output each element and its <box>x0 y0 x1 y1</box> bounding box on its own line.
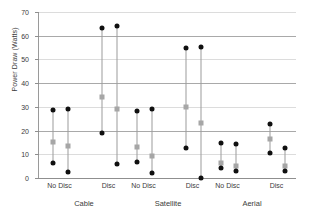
y-tick-label: 0 <box>25 175 29 182</box>
mean-point <box>115 107 120 112</box>
min-point <box>268 150 273 155</box>
gridline-40 <box>39 83 296 84</box>
gridline-10 <box>39 154 296 155</box>
min-point <box>199 175 204 180</box>
y-tick-70: 70 <box>35 12 39 13</box>
x-group-label-satellite: Satellite <box>155 199 182 208</box>
x-sub-label-disc: Disc <box>102 182 116 189</box>
mean-point <box>184 105 189 110</box>
max-point <box>199 45 204 50</box>
x-sub-label-disc: Disc <box>186 182 200 189</box>
y-tick-10: 10 <box>35 154 39 155</box>
max-point <box>219 141 224 146</box>
power-draw-chart: Power Draw (Watts) 010203040506070 No Di… <box>0 0 309 216</box>
x-group-label-cable: Cable <box>74 199 94 208</box>
min-point <box>100 131 105 136</box>
max-point <box>150 106 155 111</box>
mean-point <box>135 145 140 150</box>
max-point <box>135 108 140 113</box>
y-tick-50: 50 <box>35 59 39 60</box>
max-point <box>268 121 273 126</box>
x-sub-label-no-disc: No Disc <box>47 182 72 189</box>
y-tick-label: 50 <box>21 56 29 63</box>
mean-point <box>234 163 239 168</box>
y-tick-30: 30 <box>35 107 39 108</box>
max-point <box>234 142 239 147</box>
y-tick-20: 20 <box>35 131 39 132</box>
range-line <box>186 48 187 148</box>
mean-point <box>268 136 273 141</box>
gridline-60 <box>39 36 296 37</box>
max-point <box>115 24 120 29</box>
y-tick-label: 10 <box>21 151 29 158</box>
range-line <box>117 26 118 164</box>
min-point <box>115 162 120 167</box>
max-point <box>184 46 189 51</box>
min-point <box>283 168 288 173</box>
x-axis-baseline <box>39 178 296 179</box>
mean-point <box>199 121 204 126</box>
y-axis-title: Power Draw (Watts) <box>11 5 18 115</box>
x-sub-label-disc: Disc <box>270 182 284 189</box>
min-point <box>184 146 189 151</box>
x-sub-label-no-disc: No Disc <box>131 182 156 189</box>
y-tick-label: 40 <box>21 80 29 87</box>
min-point <box>234 169 239 174</box>
min-point <box>150 171 155 176</box>
y-tick-60: 60 <box>35 36 39 37</box>
y-tick-label: 70 <box>21 9 29 16</box>
mean-point <box>51 140 56 145</box>
range-line <box>68 109 69 172</box>
y-tick-label: 20 <box>21 127 29 134</box>
max-point <box>66 106 71 111</box>
mean-point <box>100 95 105 100</box>
range-line <box>152 109 153 173</box>
min-point <box>51 160 56 165</box>
gridline-20 <box>39 131 296 132</box>
gridline-70 <box>39 12 296 13</box>
y-tick-0: 0 <box>35 178 39 179</box>
gridline-30 <box>39 107 296 108</box>
range-line <box>137 111 138 162</box>
range-line <box>102 28 103 133</box>
x-group-label-aerial: Aerial <box>242 199 261 208</box>
y-tick-label: 30 <box>21 103 29 110</box>
gridline-50 <box>39 59 296 60</box>
min-point <box>135 159 140 164</box>
max-point <box>51 107 56 112</box>
min-point <box>66 169 71 174</box>
plot-area: 010203040506070 <box>38 12 295 178</box>
x-sub-label-no-disc: No Disc <box>215 182 240 189</box>
y-tick-label: 60 <box>21 32 29 39</box>
min-point <box>219 165 224 170</box>
y-tick-40: 40 <box>35 83 39 84</box>
max-point <box>283 145 288 150</box>
mean-point <box>66 144 71 149</box>
mean-point <box>150 153 155 158</box>
range-line <box>201 47 202 177</box>
max-point <box>100 26 105 31</box>
range-line <box>53 110 54 163</box>
